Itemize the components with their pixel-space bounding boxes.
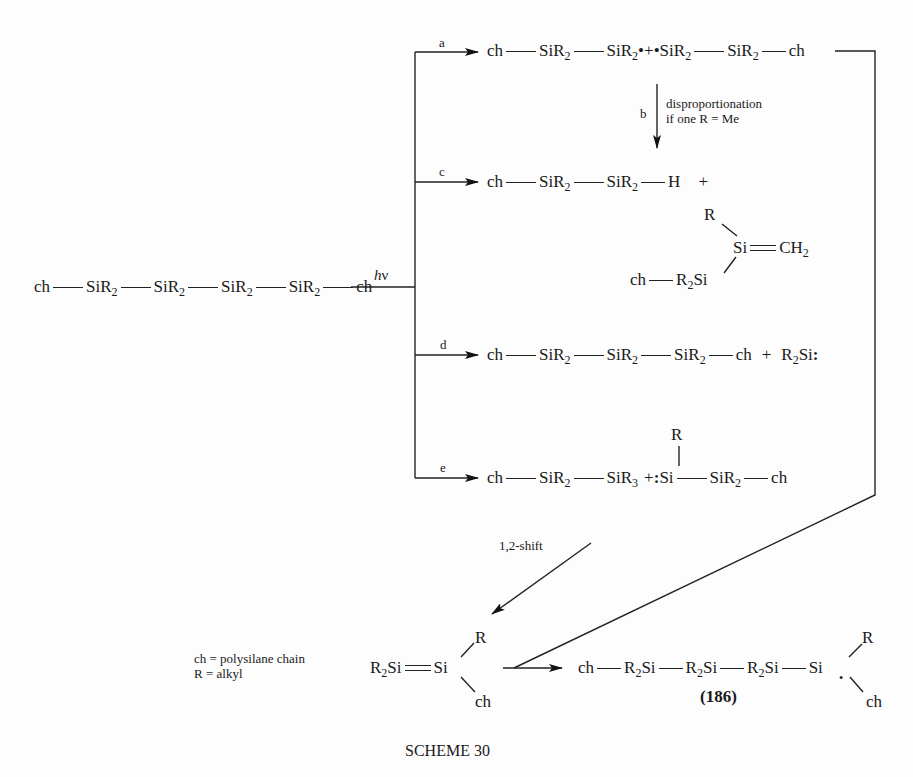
bond-final-si-r bbox=[849, 644, 862, 657]
chain-end: ch bbox=[578, 658, 594, 677]
silyl-group: SiR bbox=[539, 468, 565, 487]
disilene: R2SiSi bbox=[370, 658, 448, 678]
bond bbox=[506, 182, 536, 183]
bond bbox=[597, 668, 621, 669]
subscript: 2 bbox=[314, 285, 320, 299]
plus-sign: + bbox=[762, 345, 772, 364]
r-group: R bbox=[686, 658, 697, 677]
shift-label: 1,2-shift bbox=[499, 539, 543, 553]
silicon: Si bbox=[733, 238, 747, 257]
bond bbox=[659, 668, 683, 669]
chain-end: ch bbox=[736, 345, 752, 364]
chain-end: ch bbox=[487, 172, 503, 191]
silyl-group: SiR bbox=[221, 277, 247, 296]
silicon: Si bbox=[641, 658, 655, 677]
plus-sign: + bbox=[644, 41, 654, 60]
disproportionation-note: disproportionation if one R = Me bbox=[666, 96, 762, 126]
r-group: R bbox=[747, 658, 758, 677]
product-186-r: R bbox=[862, 628, 873, 648]
subscript: 2 bbox=[565, 353, 571, 367]
bond bbox=[506, 478, 536, 479]
product-a-radicals: chSiR2SiR2•+•SiR2SiR2ch bbox=[487, 41, 805, 61]
bond bbox=[256, 287, 286, 288]
compound-number: (186) bbox=[700, 687, 737, 707]
silyl-group: SiR bbox=[710, 468, 736, 487]
bond bbox=[53, 287, 83, 288]
bond bbox=[649, 280, 673, 281]
subscript: 2 bbox=[112, 285, 118, 299]
product-186-ch: ch bbox=[866, 692, 882, 712]
subscript: 2 bbox=[565, 180, 571, 194]
bond-si-r2si bbox=[724, 257, 736, 273]
silene-chain: chR2Si bbox=[630, 270, 708, 290]
bond bbox=[323, 287, 353, 288]
bond bbox=[574, 355, 604, 356]
bond bbox=[574, 51, 604, 52]
bond bbox=[762, 51, 786, 52]
silyl-group: SiR bbox=[154, 277, 180, 296]
subscript: 2 bbox=[735, 476, 741, 490]
plus-sign: + bbox=[698, 172, 708, 191]
legend-ch: ch = polysilane chain bbox=[194, 651, 305, 666]
legend: ch = polysilane chain R = alkyl bbox=[194, 651, 305, 681]
bond bbox=[709, 355, 733, 356]
subscript: 2 bbox=[565, 49, 571, 63]
bond bbox=[694, 51, 724, 52]
silyl-group: SiR bbox=[539, 345, 565, 364]
silylene-si: Si bbox=[659, 468, 673, 487]
hv-condition: hν bbox=[374, 265, 388, 285]
silyl-group: SiR bbox=[86, 277, 112, 296]
label-e: e bbox=[440, 461, 446, 475]
silyl-group: SiR bbox=[539, 41, 565, 60]
label-d: d bbox=[440, 338, 447, 352]
bond-si-r bbox=[461, 643, 474, 657]
nu-symbol: ν bbox=[382, 267, 389, 283]
subscript: 2 bbox=[803, 246, 809, 260]
methylene: CH bbox=[779, 238, 803, 257]
bond-final-si-ch bbox=[850, 677, 863, 692]
bond bbox=[574, 478, 604, 479]
silylene-si: Si bbox=[799, 345, 813, 364]
bond-r-si bbox=[722, 224, 737, 236]
silicon: Si bbox=[764, 658, 778, 677]
bond bbox=[188, 287, 218, 288]
subscript: 2 bbox=[632, 353, 638, 367]
bond bbox=[506, 355, 536, 356]
arrow-1-2-shift bbox=[492, 543, 591, 614]
legend-r: R = alkyl bbox=[194, 666, 305, 681]
disilene-r: R bbox=[475, 628, 486, 648]
label-c: c bbox=[439, 165, 445, 179]
subscript: 2 bbox=[700, 353, 706, 367]
subscript: 2 bbox=[179, 285, 185, 299]
silyl-group: SiR bbox=[727, 41, 753, 60]
bond bbox=[720, 668, 744, 669]
product-e: chSiR2SiR3+:SiSiR2ch bbox=[487, 468, 787, 488]
silyl-radical-si: Si bbox=[809, 658, 823, 677]
subscript: 2 bbox=[685, 49, 691, 63]
chain-end: ch bbox=[630, 270, 646, 289]
silicon: Si bbox=[693, 270, 707, 289]
subscript: 3 bbox=[632, 476, 638, 490]
double-bond bbox=[750, 245, 776, 251]
hydrogen: H bbox=[668, 172, 680, 191]
h-symbol: h bbox=[374, 267, 382, 283]
silyl-group: SiR bbox=[607, 172, 633, 191]
r-group: R bbox=[370, 658, 381, 677]
chain-end: ch bbox=[34, 277, 50, 296]
product-d: chSiR2SiR2SiR2ch+R2Si: bbox=[487, 345, 818, 365]
bond-si-ch bbox=[461, 677, 475, 692]
bond bbox=[677, 478, 707, 479]
subscript: 2 bbox=[565, 476, 571, 490]
label-a: a bbox=[439, 36, 445, 50]
note-line-1: disproportionation bbox=[666, 96, 762, 111]
chain-end: ch bbox=[487, 468, 503, 487]
bond bbox=[121, 287, 151, 288]
subscript: 2 bbox=[753, 49, 759, 63]
silyl-group: SiR bbox=[607, 41, 633, 60]
silyl-group: SiR bbox=[607, 345, 633, 364]
chain-end: ch bbox=[487, 41, 503, 60]
silicon: Si bbox=[434, 658, 448, 677]
r-group: R bbox=[624, 658, 635, 677]
chain-end: ch bbox=[789, 41, 805, 60]
silicon: Si bbox=[387, 658, 401, 677]
